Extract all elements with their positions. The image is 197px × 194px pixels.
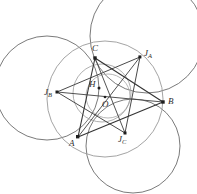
label-h: H [89,80,96,89]
point-o [104,96,107,99]
label-ja-subscript: A [148,52,152,59]
label-jc: JC [118,135,126,145]
label-jb-subscript: B [48,91,52,98]
segment-c-a [78,58,95,137]
label-a: A [69,139,75,148]
point-c [93,56,96,59]
segment-jc-ja [125,57,140,133]
point-ja [138,55,141,58]
segment-b-c [95,58,163,102]
label-jb: JB [44,88,52,98]
label-ja: JA [144,49,152,59]
segment-jb-jc [57,92,125,133]
excircle-c [86,99,180,193]
geometry-figure: A B C H O JA JB JC [0,0,197,194]
point-h [98,87,101,90]
label-c: C [92,44,98,53]
label-jc-subscript: C [122,138,126,145]
label-b: B [168,97,174,106]
excircle-a [90,0,197,93]
point-a [76,135,79,138]
point-b [161,100,164,103]
label-o: O [102,100,109,109]
point-jb [56,91,59,94]
